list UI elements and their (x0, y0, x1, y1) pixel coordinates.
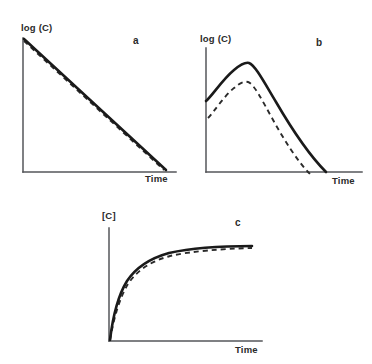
panel-b-dashed-curve (208, 82, 310, 174)
panel-a-dashed-curve (24, 41, 164, 170)
panel-b: log (C) b Time (186, 0, 372, 190)
panel-a-solid-curve (24, 39, 166, 170)
panel-c-xlabel: Time (235, 344, 258, 355)
panel-b-ylabel: log (C) (200, 33, 231, 44)
panel-c: [C] c Time (80, 195, 280, 364)
panel-c-plot: [C] c Time (80, 195, 280, 364)
figure-root: log (C) a Time log (C) b Time [C] c (0, 0, 372, 364)
panel-c-solid-curve (110, 246, 252, 340)
panel-a-letter: a (133, 35, 139, 46)
panel-a: log (C) a Time (0, 0, 186, 190)
panel-c-dashed-curve (110, 248, 252, 340)
panel-a-xlabel: Time (145, 173, 168, 184)
panel-b-letter: b (316, 37, 322, 48)
panel-b-solid-curve (206, 63, 326, 172)
panel-b-plot: log (C) b Time (186, 0, 372, 190)
panel-c-ylabel: [C] (102, 210, 116, 221)
panel-c-letter: c (235, 217, 241, 228)
panel-a-ylabel: log (C) (21, 22, 52, 33)
panel-a-plot: log (C) a Time (0, 0, 186, 190)
panel-b-xlabel: Time (332, 175, 355, 186)
